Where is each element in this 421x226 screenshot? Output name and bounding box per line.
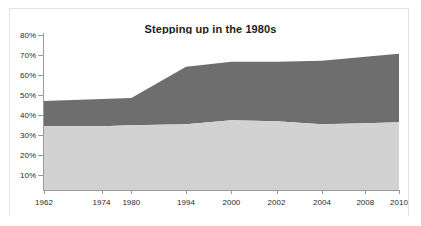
y-axis-tick (38, 55, 43, 56)
series-upper-band-area (44, 54, 399, 126)
x-axis-tick (365, 190, 366, 194)
x-axis-line (43, 190, 400, 191)
x-axis-tick (322, 190, 323, 194)
y-axis-tick-label: 60% (20, 70, 36, 79)
x-axis-tick-label: 1974 (93, 198, 111, 207)
y-axis-tick-label: 50% (20, 91, 36, 100)
y-axis-tick-label: 70% (20, 50, 36, 59)
x-axis-tick (102, 190, 103, 194)
x-axis-tick-label: 1994 (177, 198, 195, 207)
y-axis-tick-label: 40% (20, 111, 36, 120)
y-axis-tick (38, 75, 43, 76)
x-axis-tick-label: 2010 (390, 198, 408, 207)
x-axis-tick-label: 2004 (313, 198, 331, 207)
x-axis-tick (131, 190, 132, 194)
x-axis-tick (231, 190, 232, 194)
x-axis-tick-label: 2008 (356, 198, 374, 207)
y-axis-tick (38, 95, 43, 96)
x-axis-tick (277, 190, 278, 194)
y-axis-tick (38, 155, 43, 156)
x-axis-tick-label: 2000 (222, 198, 240, 207)
chart-container: Stepping up in the 1980s 80%70%60%50%40%… (0, 0, 421, 226)
y-axis-tick-label: 10% (20, 171, 36, 180)
y-axis-tick (38, 135, 43, 136)
y-axis-tick (38, 35, 43, 36)
series-lower-band-area (44, 120, 399, 190)
y-axis-tick-label: 30% (20, 131, 36, 140)
plot-wrapper: 80%70%60%50%40%30%20%10% 196219741980199… (0, 0, 421, 226)
x-axis-tick-label: 1962 (35, 198, 53, 207)
x-axis-tick-label: 2002 (268, 198, 286, 207)
y-axis-tick-label: 80% (20, 30, 36, 39)
plot-area (44, 34, 399, 190)
y-axis-line (43, 33, 44, 191)
x-axis-tick (44, 190, 45, 194)
x-axis-tick (399, 190, 400, 194)
area-chart-svg (44, 34, 399, 190)
y-axis-tick-label: 20% (20, 151, 36, 160)
x-axis-tick (186, 190, 187, 194)
x-axis-tick-label: 1980 (122, 198, 140, 207)
y-axis-tick (38, 175, 43, 176)
y-axis-tick (38, 115, 43, 116)
